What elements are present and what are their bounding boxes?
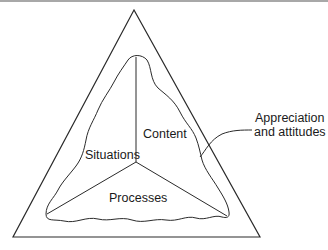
annotation-line-2: and attitudes — [254, 125, 326, 139]
divider-left — [47, 162, 136, 214]
annotation-line-1: Appreciation — [255, 111, 325, 125]
label-situations: Situations — [85, 148, 140, 162]
label-processes: Processes — [109, 191, 167, 205]
label-content: Content — [143, 127, 187, 141]
divider-right — [136, 162, 227, 216]
